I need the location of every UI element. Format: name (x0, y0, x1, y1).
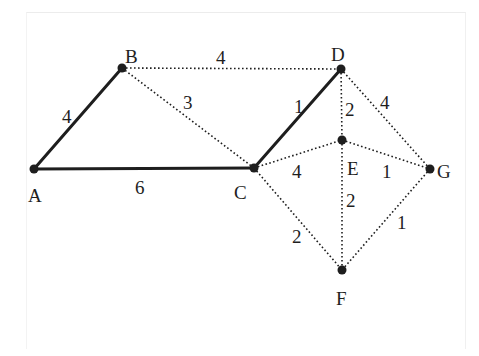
node-label-a: A (28, 185, 42, 206)
edge-d-e (341, 69, 342, 140)
node-c (250, 164, 259, 173)
node-a (30, 165, 39, 174)
edge-weight-b-c: 3 (183, 92, 193, 113)
edge-weight-c-d: 1 (294, 96, 304, 117)
node-label-c: C (234, 182, 247, 203)
edge-a-c (34, 168, 254, 169)
edge-weight-d-e: 2 (345, 99, 355, 120)
edges-layer (34, 68, 430, 270)
edge-c-f (254, 168, 342, 270)
node-d (337, 65, 346, 74)
edge-a-b (34, 68, 122, 169)
node-label-f: F (336, 288, 347, 309)
graph-diagram: 464312441221 ABCDEFG (0, 0, 479, 356)
edge-weight-a-b: 4 (62, 106, 72, 127)
edge-weight-e-f: 2 (346, 190, 356, 211)
node-label-b: B (125, 46, 138, 67)
node-e (338, 136, 347, 145)
edge-weight-b-d: 4 (216, 47, 226, 68)
edge-weight-d-g: 4 (380, 92, 390, 113)
edge-weight-g-f: 1 (397, 212, 407, 233)
node-label-g: G (437, 161, 451, 182)
edge-c-d (254, 69, 341, 168)
edge-weight-a-c: 6 (135, 177, 145, 198)
node-label-e: E (347, 158, 359, 179)
edge-b-c (122, 68, 254, 168)
node-label-d: D (331, 44, 345, 65)
edge-weight-e-g: 1 (382, 161, 392, 182)
node-f (338, 266, 347, 275)
edge-weight-c-e: 4 (292, 161, 302, 182)
edge-b-d (122, 68, 341, 69)
graph-canvas: 464312441221 ABCDEFG (0, 0, 479, 356)
edge-weight-c-f: 2 (292, 226, 302, 247)
node-g (426, 165, 435, 174)
edge-g-f (342, 169, 430, 270)
